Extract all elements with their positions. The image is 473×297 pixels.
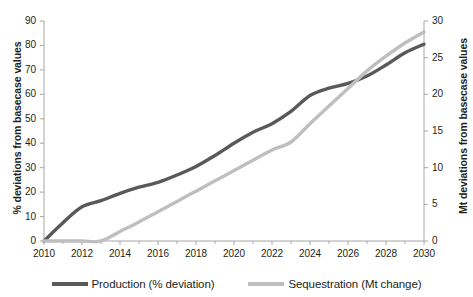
x-tick-label: 2026 [328,248,368,259]
right-tick-label: 0 [432,235,458,246]
left-tick-label: 80 [10,39,36,50]
left-tick-label: 70 [10,64,36,75]
legend-label: Production (% deviation) [92,278,215,290]
x-tick-label: 2028 [366,248,406,259]
legend-item-2[interactable]: Sequestration (Mt change) [248,278,421,290]
left-tick-label: 10 [10,211,36,222]
right-tick-label: 5 [432,198,458,209]
left-tick-label: 30 [10,162,36,173]
left-tick-label: 50 [10,113,36,124]
legend-swatch-icon [52,282,88,286]
series-line-2 [44,32,424,242]
right-tick-label: 15 [432,125,458,136]
legend-label: Sequestration (Mt change) [288,278,421,290]
tick-marks [40,21,428,245]
legend-item-1[interactable]: Production (% deviation) [52,278,215,290]
x-tick-label: 2016 [138,248,178,259]
x-tick-label: 2010 [24,248,64,259]
series-lines [44,32,424,242]
axis-lines [44,21,424,241]
right-tick-label: 20 [432,88,458,99]
left-tick-label: 60 [10,88,36,99]
x-tick-label: 2024 [290,248,330,259]
left-tick-label: 90 [10,15,36,26]
x-tick-label: 2022 [252,248,292,259]
left-tick-label: 0 [10,235,36,246]
right-axis-title: Mt deviations from basecase values [457,31,469,221]
left-tick-label: 40 [10,137,36,148]
right-tick-label: 10 [432,162,458,173]
right-tick-label: 30 [432,15,458,26]
series-line-1 [44,44,424,241]
chart-figure: % deviations from basecase values Mt dev… [0,0,473,297]
x-tick-label: 2018 [176,248,216,259]
x-tick-label: 2030 [404,248,444,259]
x-tick-label: 2014 [100,248,140,259]
left-tick-label: 20 [10,186,36,197]
right-tick-label: 25 [432,52,458,63]
legend-swatch-icon [248,282,284,286]
x-tick-label: 2020 [214,248,254,259]
chart-legend: Production (% deviation)Sequestration (M… [0,272,473,296]
x-tick-label: 2012 [62,248,102,259]
